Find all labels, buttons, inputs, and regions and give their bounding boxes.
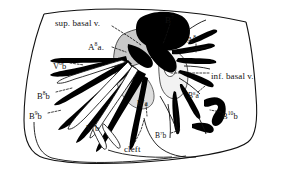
leader-v8b (70, 63, 84, 65)
label-cleft: cleft (124, 145, 141, 154)
label-v9b: V9b (86, 124, 99, 133)
label-a8-upper: A8 (187, 36, 196, 45)
leader-b8a-right (198, 86, 205, 92)
leader-b9b-lower (48, 110, 62, 113)
label-b8a-right: B8a (188, 92, 199, 100)
label-b8b-upper: B8b (37, 92, 50, 101)
label-b10b: B10b (222, 112, 238, 121)
leader-b8b-upper (56, 88, 72, 92)
anatomical-figure: sup. basal v. B7 A8 A8a. V8b inf. basal … (0, 0, 285, 176)
label-v8b: V8b (53, 62, 66, 71)
figure-canvas (0, 0, 285, 176)
label-b7b: B7b (155, 132, 166, 140)
label-a8a: A8a. (88, 43, 104, 52)
cleft-line (108, 118, 196, 157)
label-b7-top: B7 (165, 16, 174, 25)
label-b9b-lower: B9b (29, 112, 42, 121)
label-b7a: B7a (137, 100, 148, 108)
label-inf-basal-v: inf. basal v. (211, 72, 254, 81)
label-sup-basal-v: sup. basal v. (55, 19, 100, 28)
